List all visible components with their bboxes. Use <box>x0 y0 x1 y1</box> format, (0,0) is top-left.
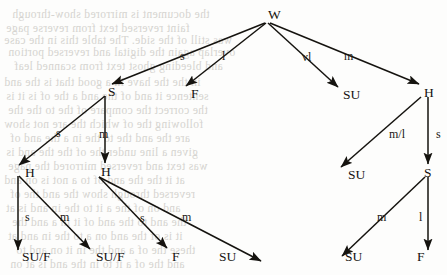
tree-node: S <box>108 85 116 99</box>
edge-label: m <box>182 211 191 223</box>
tree-diagram-figure: the document is mirrored show-throughfai… <box>0 0 447 275</box>
edge-label: vl <box>302 51 311 63</box>
tree-leaf-node: SU <box>348 168 365 182</box>
edge-label: s <box>436 128 441 140</box>
edge-label: m <box>99 128 108 140</box>
edge-label: s <box>180 50 185 62</box>
edge-label: l <box>222 50 225 62</box>
edge-label: m <box>60 211 69 223</box>
edge-label: m/l <box>389 128 405 140</box>
tree-leaf-node: F <box>172 250 180 264</box>
edge-label: m <box>377 211 386 223</box>
tree-edges-canvas <box>0 0 447 275</box>
tree-leaf-node: SU <box>345 250 362 264</box>
tree-leaf-node: F <box>417 250 425 264</box>
tree-node: H <box>101 165 111 179</box>
tree-leaf-node: F <box>191 87 199 101</box>
tree-node: H <box>424 86 434 100</box>
edge-label: s <box>25 211 30 223</box>
tree-node: S <box>424 166 432 180</box>
tree-node: H <box>25 166 35 180</box>
tree-edge <box>99 177 167 248</box>
edge-label: s <box>140 212 145 224</box>
tree-leaf-node: SU <box>219 250 236 264</box>
tree-node: W <box>268 8 281 22</box>
tree-edge <box>19 96 105 165</box>
edge-label: m <box>344 50 353 62</box>
tree-edge <box>186 23 266 86</box>
tree-leaf-node: SU/F <box>96 250 125 264</box>
edge-label: l <box>419 211 422 223</box>
tree-leaf-node: SU <box>343 88 360 102</box>
tree-leaf-node: SU/F <box>22 250 51 264</box>
tree-edge <box>112 23 265 84</box>
tree-edge <box>341 97 421 167</box>
edge-label: s <box>56 127 61 139</box>
